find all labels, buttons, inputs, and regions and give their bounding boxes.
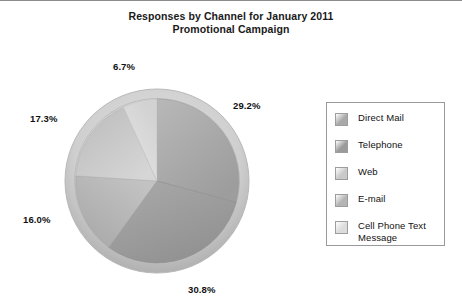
legend-item-direct-mail[interactable]: Direct Mail xyxy=(335,112,443,126)
pct-label-email: 16.0% xyxy=(23,214,50,225)
pct-label-cell-phone-text-message: 6.7% xyxy=(113,61,135,72)
legend-item-telephone[interactable]: Telephone xyxy=(335,139,443,153)
chart-title-line-1: Responses by Channel for January 2011 xyxy=(0,10,462,23)
pie-plot-area xyxy=(62,86,252,276)
pct-label-direct-mail: 29.2% xyxy=(233,100,260,111)
chart-title-line-2: Promotional Campaign xyxy=(0,23,462,36)
chart-title: Responses by Channel for January 2011 Pr… xyxy=(0,10,462,36)
pie-svg xyxy=(62,86,252,276)
legend-label-telephone: Telephone xyxy=(358,139,403,151)
legend-item-email[interactable]: E-mail xyxy=(335,193,443,207)
legend-swatch-telephone xyxy=(335,140,348,153)
chart-legend: Direct Mail Telephone Web E-mail Cell Ph… xyxy=(326,102,445,246)
legend-swatch-email xyxy=(335,194,348,207)
legend-label-web: Web xyxy=(358,166,378,178)
legend-swatch-cell-phone-text-message xyxy=(335,221,348,234)
pct-label-telephone: 30.8% xyxy=(188,284,215,295)
legend-label-cell-phone-text-message: Cell Phone Text Message xyxy=(358,220,443,243)
legend-item-cell-phone-text-message[interactable]: Cell Phone Text Message xyxy=(335,220,443,243)
pct-label-web: 17.3% xyxy=(30,113,57,124)
legend-swatch-web xyxy=(335,167,348,180)
legend-item-web[interactable]: Web xyxy=(335,166,443,180)
pie-chart-figure: Responses by Channel for January 2011 Pr… xyxy=(0,0,462,305)
legend-label-direct-mail: Direct Mail xyxy=(358,112,404,124)
legend-label-email: E-mail xyxy=(358,193,386,205)
legend-swatch-direct-mail xyxy=(335,113,348,126)
